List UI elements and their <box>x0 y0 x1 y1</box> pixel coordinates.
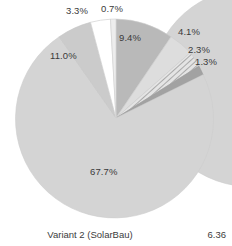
pie-label-9-4: 9.4% <box>119 32 141 43</box>
pie-label-11-0: 11.0% <box>50 50 77 61</box>
caption-variant-value: 6.36 <box>208 229 227 240</box>
caption-variant-name: Variant 2 (SolarBau) <box>0 229 180 240</box>
chart-caption: Variant 2 (SolarBau) 6.36 <box>0 229 232 246</box>
pie-label-3-3: 3.3% <box>66 5 88 16</box>
pie-label-4-1: 4.1% <box>178 26 200 37</box>
pie-label-2-3: 2.3% <box>188 44 210 55</box>
pie-chart-figure: 3.3% 0.7% 9.4% 4.1% 2.3% 1.3% 11.0% 67.7… <box>0 0 232 246</box>
pie-label-67-7: 67.7% <box>90 166 117 177</box>
pie-label-1-3: 1.3% <box>195 56 217 67</box>
pie-label-0-7: 0.7% <box>101 3 123 14</box>
